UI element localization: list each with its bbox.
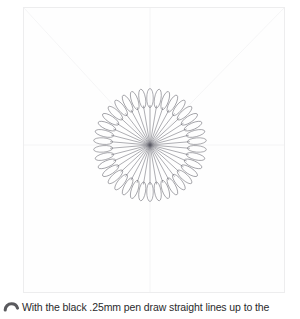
caption-text: With the black .25mm pen draw straight l… — [22, 296, 269, 319]
paper-frame — [23, 7, 285, 293]
caption-bar: With the black .25mm pen draw straight l… — [0, 296, 300, 319]
drawing-canvas — [0, 0, 300, 296]
step-number-two-icon — [2, 296, 22, 319]
